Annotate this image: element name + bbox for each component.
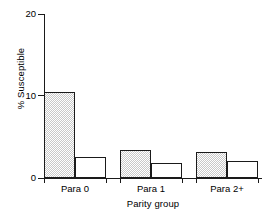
bar-para0-series1	[44, 92, 75, 178]
x-axis-tick-3	[182, 179, 183, 183]
y-axis-tick-label-0: 0	[6, 173, 36, 183]
y-axis-tick-label-20: 20	[6, 9, 36, 19]
bar-para2plus-series1	[196, 152, 227, 178]
bar-para1-series1	[120, 150, 151, 178]
x-axis-tick-4	[196, 179, 197, 183]
bar-para0-series2	[75, 157, 106, 178]
bar-chart-figure: % Susceptible 20 10 0 Para 0 Para 1 Para…	[0, 0, 279, 220]
bar-para1-series2	[151, 163, 182, 178]
y-axis-tick-20	[38, 14, 44, 15]
y-axis-title: % Susceptible	[15, 14, 26, 144]
x-axis-tick-right	[258, 179, 259, 183]
x-axis-tick-1	[106, 179, 107, 183]
x-axis-tick-left	[44, 179, 45, 183]
x-axis-tick-label-para1: Para 1	[116, 183, 186, 194]
y-axis-tick-label-10: 10	[6, 91, 36, 101]
x-axis-line	[44, 178, 262, 179]
bar-para2plus-series2	[227, 161, 258, 178]
x-axis-tick-label-para0: Para 0	[40, 183, 110, 194]
x-axis-title: Parity group	[44, 198, 262, 209]
x-axis-tick-2	[120, 179, 121, 183]
x-axis-tick-label-para2plus: Para 2+	[192, 183, 262, 194]
